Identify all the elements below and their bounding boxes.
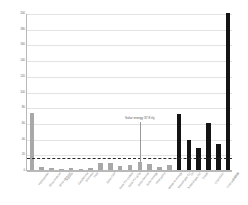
bar (206, 123, 211, 170)
bar (196, 148, 201, 170)
bar (177, 114, 182, 170)
bar (226, 13, 231, 170)
y-axis-tick-label: 80 (22, 106, 25, 109)
annotation-leader-line (140, 122, 141, 162)
plot-area: 020406080100120140160180200 Solar energy… (26, 14, 232, 171)
y-axis-tick-label: 0 (23, 169, 25, 172)
y-axis-tick-label: 20 (22, 154, 25, 157)
bar-series (27, 14, 232, 170)
x-axis-tick (70, 170, 71, 172)
x-axis-tick (60, 170, 61, 172)
bar (98, 163, 103, 170)
x-axis-tick (139, 170, 140, 172)
x-axis-tick (90, 170, 91, 172)
chart-container: 020406080100120140160180200 Solar energy… (0, 0, 248, 205)
x-axis-tick-label: Solar CSP (106, 172, 117, 185)
y-axis-tick-label: 140 (20, 59, 25, 62)
x-axis-tick-label: Coal IGCC (214, 172, 225, 185)
x-axis-tick (227, 170, 228, 172)
x-axis-tick (80, 170, 81, 172)
x-axis-tick (207, 170, 208, 172)
x-axis-tick (119, 170, 120, 172)
bar (138, 162, 143, 170)
x-axis-tick (129, 170, 130, 172)
x-axis-tick (158, 170, 159, 172)
x-axis-tick-labels: HydropowerWind onshoreWind offshoreNucle… (26, 172, 232, 205)
x-axis-tick (109, 170, 110, 172)
x-axis-tick (149, 170, 150, 172)
bar (187, 140, 192, 170)
reference-line (27, 158, 232, 159)
y-axis-tick-label: 200 (20, 12, 25, 15)
x-axis-tick (100, 170, 101, 172)
x-axis-tick (31, 170, 32, 172)
y-axis-tick-label: 60 (22, 122, 25, 125)
y-axis-tick-label: 100 (20, 91, 25, 94)
x-axis-tick (51, 170, 52, 172)
bar (108, 163, 113, 170)
y-axis-tick-label: 160 (20, 44, 25, 47)
bar (30, 113, 35, 170)
y-axis-tick-label: 40 (22, 138, 25, 141)
x-axis-tick (178, 170, 179, 172)
x-axis-tick (198, 170, 199, 172)
annotation-label: Solar energy 37.8 t/y (125, 117, 154, 121)
x-axis-tick (168, 170, 169, 172)
x-axis-tick-label: Tidal (94, 172, 100, 179)
x-axis-tick-label: Diesel (202, 172, 209, 180)
y-axis-tick-label: 180 (20, 28, 25, 31)
x-axis-tick (217, 170, 218, 172)
x-axis-tick (41, 170, 42, 172)
x-axis-tick (188, 170, 189, 172)
y-axis-tick-label: 120 (20, 75, 25, 78)
